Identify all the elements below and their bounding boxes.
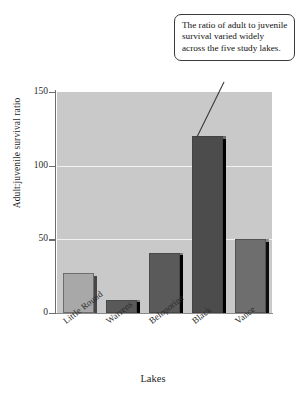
bar-chart-figure: 050100150 Little RoundWarrensBeloporineB… <box>0 0 306 401</box>
y-axis-title: Adult:juvenile survival ratio <box>12 73 22 233</box>
y-tick-150 <box>49 92 56 93</box>
bar-vance <box>235 239 266 313</box>
bar-side-face <box>137 302 140 313</box>
gridline-100 <box>57 166 272 167</box>
bar-front-face <box>192 136 223 313</box>
bar-front-face <box>235 239 266 313</box>
annotation-callout: The ratio of adult to juvenile survival … <box>174 14 295 61</box>
plot-area <box>57 92 272 313</box>
y-tick-label-50: 50 <box>39 234 49 244</box>
y-axis-line <box>55 90 56 314</box>
y-tick-label-150: 150 <box>34 87 48 97</box>
x-axis-title: Lakes <box>0 373 306 384</box>
bar-side-face <box>266 242 269 313</box>
y-tick-label-0: 0 <box>43 308 48 318</box>
y-tick-0 <box>49 313 56 314</box>
y-tick-label-100: 100 <box>34 161 48 171</box>
y-tick-100 <box>49 166 56 167</box>
y-tick-50 <box>49 239 56 240</box>
bar-black <box>192 136 223 313</box>
bar-side-face <box>223 139 226 313</box>
